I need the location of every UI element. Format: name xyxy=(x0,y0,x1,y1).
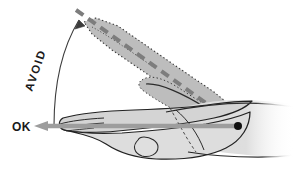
diagram-canvas: AVOID xyxy=(0,0,294,169)
wrist-posture-illustration: AVOID xyxy=(0,0,294,169)
ok-label: OK xyxy=(12,120,31,134)
wrist-pivot-point xyxy=(234,122,242,130)
